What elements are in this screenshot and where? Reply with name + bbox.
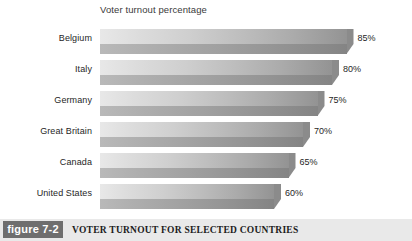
- bar-front-face: [100, 137, 303, 147]
- bar-category-label: Great Britain: [0, 126, 92, 136]
- chart-plot-area: Voter turnout percentage Belgium85%Italy…: [0, 0, 412, 218]
- bar-shape: [100, 29, 347, 54]
- bar-shape: [100, 91, 318, 116]
- bar-shape: [100, 153, 289, 178]
- bar-end-bevel: [332, 60, 339, 85]
- bar-value-label: 85%: [358, 33, 376, 43]
- bar-row: Canada65%: [0, 150, 412, 181]
- bar-end-bevel: [289, 153, 296, 178]
- bar-shape: [100, 184, 274, 209]
- bar-category-label: United States: [0, 188, 92, 198]
- bar-category-label: Canada: [0, 157, 92, 167]
- figure-number-badge: figure 7-2: [3, 221, 63, 238]
- bar-top-face: [100, 60, 332, 75]
- bar-front-face: [100, 44, 347, 54]
- bar-row: United States60%: [0, 181, 412, 212]
- bar-end-bevel: [318, 91, 325, 116]
- bar-series-container: Belgium85%Italy80%Germany75%Great Britai…: [0, 26, 412, 218]
- bar-value-label: 60%: [285, 188, 303, 198]
- bar-category-label: Italy: [0, 64, 92, 74]
- bar-value-label: 80%: [343, 64, 361, 74]
- bar-top-face: [100, 91, 318, 106]
- chart-title: Voter turnout percentage: [100, 4, 207, 15]
- bar-end-bevel: [347, 29, 354, 54]
- bar-shape: [100, 122, 303, 147]
- bar-category-label: Germany: [0, 95, 92, 105]
- bar-front-face: [100, 106, 318, 116]
- bar-category-label: Belgium: [0, 33, 92, 43]
- bar-end-bevel: [303, 122, 310, 147]
- bar-front-face: [100, 199, 274, 209]
- bar-end-bevel: [274, 184, 281, 209]
- bar-top-face: [100, 153, 289, 168]
- bar-value-label: 70%: [314, 126, 332, 136]
- bar-top-face: [100, 29, 347, 44]
- bar-shape: [100, 60, 332, 85]
- bar-front-face: [100, 75, 332, 85]
- figure-container: Voter turnout percentage Belgium85%Italy…: [0, 0, 412, 241]
- bar-front-face: [100, 168, 289, 178]
- bar-top-face: [100, 122, 303, 137]
- bar-top-face: [100, 184, 274, 199]
- figure-caption-bar: figure 7-2 VOTER TURNOUT FOR SELECTED CO…: [0, 219, 412, 241]
- bar-value-label: 75%: [329, 95, 347, 105]
- bar-row: Italy80%: [0, 57, 412, 88]
- bar-value-label: 65%: [300, 157, 318, 167]
- bar-row: Belgium85%: [0, 26, 412, 57]
- figure-caption-title: VOTER TURNOUT FOR SELECTED COUNTRIES: [72, 219, 298, 241]
- bar-row: Great Britain70%: [0, 119, 412, 150]
- bar-row: Germany75%: [0, 88, 412, 119]
